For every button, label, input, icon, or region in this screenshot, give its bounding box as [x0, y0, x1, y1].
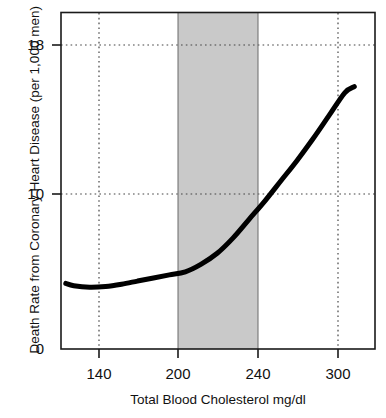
shaded-region-borderline-high — [178, 13, 258, 349]
y-axis-title: Death Rate from Coronary Heart Disease (… — [27, 14, 42, 354]
xtick-label-140: 140 — [69, 366, 129, 381]
x-axis-title: Total Blood Cholesterol mg/dl — [61, 392, 375, 407]
xtick-label-200: 200 — [148, 366, 208, 381]
xtick-label-240: 240 — [228, 366, 288, 381]
chart-figure: 18 10 0 140 200 240 300 Death Rate from … — [0, 0, 386, 418]
xtick-label-300: 300 — [308, 366, 368, 381]
chart-canvas — [0, 0, 386, 418]
